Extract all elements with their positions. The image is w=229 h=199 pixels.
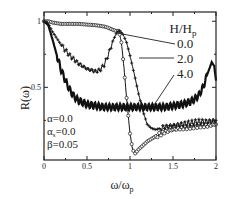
annotation-beta: β=0.05 (47, 138, 79, 150)
x-tick-label: 1 (128, 162, 132, 171)
circle-marker (156, 136, 159, 139)
circle-marker (123, 76, 126, 79)
parameter-annotations: α=0.0 αs=0.0 β=0.05 (47, 112, 79, 150)
legend-leader-2 (154, 75, 174, 105)
circle-marker (199, 126, 202, 129)
plus-marker (128, 54, 131, 57)
plus-marker (142, 112, 145, 115)
plus-marker (113, 36, 116, 39)
plus-marker (135, 84, 138, 87)
plus-marker (111, 40, 114, 43)
circle-marker (125, 96, 128, 99)
plus-marker (123, 37, 126, 40)
circle-marker (127, 114, 130, 117)
circle-marker (182, 128, 185, 131)
legend-entry-1: 2.0 (177, 51, 193, 66)
circle-marker (159, 134, 162, 137)
circle-marker (122, 58, 125, 61)
circle-marker (130, 143, 133, 146)
plus-marker (127, 47, 130, 50)
y-axis-label: R(ω) (18, 86, 32, 110)
circle-marker (189, 127, 192, 130)
legend-entry-0: 0.0 (177, 36, 193, 51)
plus-marker (153, 128, 156, 131)
x-tick-label: 1.5 (168, 162, 178, 171)
annotation-alpha: α=0.0 (47, 112, 73, 124)
circle-marker (128, 132, 131, 135)
y-tick-label: 0.5 (31, 83, 41, 92)
plus-marker (156, 128, 159, 131)
y-tick-label: 1 (37, 17, 41, 26)
circle-marker (185, 128, 188, 131)
plus-marker (190, 119, 193, 122)
circle-marker (120, 41, 123, 44)
plus-marker (134, 77, 137, 80)
x-tick-label: 2 (214, 162, 218, 171)
annotation-alpha-s: αs=0.0 (47, 125, 76, 139)
plus-marker (144, 117, 147, 120)
plus-marker (132, 69, 135, 72)
x-tick-label: 0.5 (82, 162, 92, 171)
x-axis-label: ω/ωp (110, 178, 133, 194)
plus-marker (106, 57, 109, 60)
plus-marker (194, 118, 197, 121)
chart: 00.511.520.51 R(ω) ω/ωp H/Hp 0.0 2.0 4.0… (0, 0, 229, 199)
legend-entry-2: 4.0 (177, 66, 193, 81)
plus-marker (130, 61, 133, 64)
plus-marker (125, 41, 128, 44)
circle-marker (196, 126, 199, 129)
circle-marker (192, 127, 195, 130)
plus-marker (137, 92, 140, 95)
legend: H/Hp 0.0 2.0 4.0 (117, 21, 197, 105)
x-tick-label: 0 (42, 162, 46, 171)
plus-marker (154, 128, 157, 131)
